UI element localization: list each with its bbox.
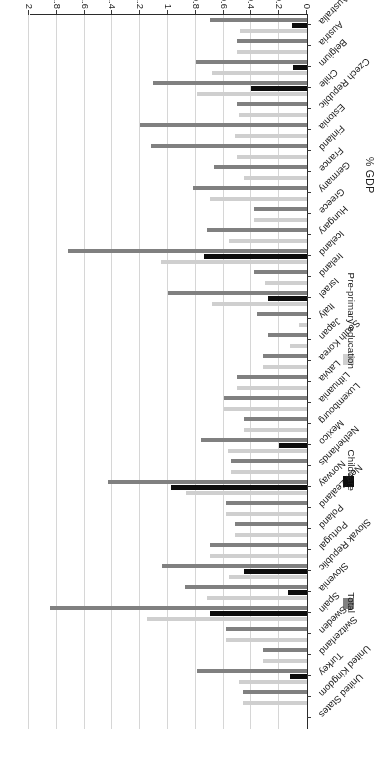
x-tick-label: 1.2 (136, 0, 147, 9)
bar-pre-primary-education (238, 50, 308, 54)
bar-pre-primary-education (290, 344, 307, 348)
bar-total (108, 480, 307, 484)
category-tick (307, 445, 311, 446)
bar-childcare (292, 23, 307, 27)
category-tick (307, 487, 311, 488)
category-tick (307, 151, 311, 152)
bar-total (257, 312, 307, 316)
bar-pre-primary-education (197, 92, 307, 96)
category-tick (307, 25, 311, 26)
bar-group (30, 561, 307, 582)
bar-total (197, 669, 307, 673)
bar-group (30, 267, 307, 288)
category-tick (307, 67, 311, 68)
bar-total (153, 81, 307, 85)
bar-group (30, 351, 307, 372)
bar-total (214, 165, 307, 169)
bar-childcare (251, 86, 307, 90)
bar-group (30, 15, 307, 36)
category-tick (307, 508, 311, 509)
bar-total (235, 522, 307, 526)
category-tick (307, 592, 311, 593)
x-tick-label: 0.2 (275, 0, 286, 9)
bar-total (207, 228, 307, 232)
category-tick (307, 319, 311, 320)
category-tick (307, 109, 311, 110)
x-tick-label: 0.4 (247, 0, 258, 9)
category-tick (307, 88, 311, 89)
bar-group (30, 120, 307, 141)
x-tick-label: 0.8 (191, 0, 202, 9)
bar-group (30, 36, 307, 57)
bar-pre-primary-education (244, 428, 307, 432)
x-tick-label: 1.6 (80, 0, 91, 9)
bar-total (168, 291, 307, 295)
category-tick (307, 466, 311, 467)
bar-total (196, 60, 307, 64)
bar-group (30, 540, 307, 561)
bar-pre-primary-education (229, 575, 307, 579)
bar-total (162, 564, 307, 568)
category-tick (307, 235, 311, 236)
category-tick (307, 424, 311, 425)
category-tick (307, 340, 311, 341)
bar-group (30, 477, 307, 498)
x-tick-label: 1.4 (108, 0, 119, 9)
category-tick (307, 571, 311, 572)
bar-pre-primary-education (238, 386, 308, 390)
bar-pre-primary-education (161, 260, 307, 264)
bar-total (226, 627, 307, 631)
bar-pre-primary-education (212, 71, 307, 75)
bar-chart-figure: TotalChildcarePre-primary education 00.2… (0, 0, 387, 769)
bar-pre-primary-education (238, 155, 308, 159)
bar-total (244, 417, 307, 421)
x-axis-line (30, 14, 308, 15)
bar-total (263, 354, 307, 358)
bar-pre-primary-education (299, 323, 307, 327)
bar-pre-primary-education (265, 281, 307, 285)
bar-total (140, 123, 307, 127)
category-tick (307, 697, 311, 698)
bar-childcare (268, 296, 307, 300)
bar-childcare (204, 254, 307, 258)
bar-group (30, 141, 307, 162)
bar-total (231, 459, 307, 463)
bar-group (30, 414, 307, 435)
bar-total (238, 39, 308, 43)
category-tick (307, 172, 311, 173)
x-tick-label: 0 (303, 4, 314, 9)
bar-group (30, 498, 307, 519)
bar-total (50, 606, 307, 610)
category-tick (307, 298, 311, 299)
bar-total (254, 207, 307, 211)
bar-pre-primary-education (235, 134, 307, 138)
bar-group (30, 603, 307, 624)
bar-total (185, 585, 307, 589)
bar-group (30, 288, 307, 309)
bar-group (30, 666, 307, 687)
bar-group (30, 330, 307, 351)
bar-group (30, 183, 307, 204)
category-tick (307, 193, 311, 194)
category-tick (307, 403, 311, 404)
rotated-figure-wrapper: TotalChildcarePre-primary education 00.2… (0, 0, 387, 769)
bar-pre-primary-education (231, 470, 307, 474)
bar-total (193, 186, 307, 190)
bar-total (268, 333, 307, 337)
category-tick (307, 277, 311, 278)
bar-pre-primary-education (254, 218, 307, 222)
bar-total (68, 249, 307, 253)
bar-group (30, 204, 307, 225)
category-tick (307, 634, 311, 635)
bar-pre-primary-education (228, 449, 307, 453)
category-tick (307, 613, 311, 614)
bar-total (201, 438, 307, 442)
category-tick (307, 382, 311, 383)
gridline (28, 15, 29, 729)
bar-group (30, 309, 307, 330)
bar-pre-primary-education (239, 680, 307, 684)
category-tick (307, 256, 311, 257)
bar-group (30, 246, 307, 267)
bar-group (30, 78, 307, 99)
bar-total (210, 18, 307, 22)
